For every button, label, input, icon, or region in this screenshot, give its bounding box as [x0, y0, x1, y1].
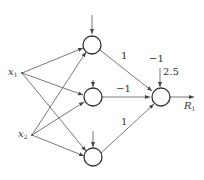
weight-h1-out: 1: [121, 51, 127, 61]
hidden-node-2: [84, 88, 102, 106]
x1-point: [21, 72, 23, 74]
hidden-node-1: [83, 36, 101, 54]
edge-x2-h2: [32, 102, 84, 135]
output-r1-label: R1: [184, 101, 195, 112]
edge-h3-out: [101, 104, 154, 153]
input-x1-label: x1: [8, 67, 17, 78]
weight-h2-out: −1: [116, 84, 131, 94]
neural-network-diagram: x1 x2 1 −1 1 −1 2.5 R1: [0, 0, 204, 180]
hidden-node-3: [84, 148, 102, 166]
x2-point: [31, 134, 33, 136]
output-node: [152, 88, 170, 106]
output-bias-weight: −1: [149, 54, 164, 64]
weight-h3-out: 1: [121, 117, 127, 127]
edge-x2-h3: [32, 135, 84, 156]
input-x2-label: x2: [18, 129, 27, 140]
output-bias-value: 2.5: [163, 67, 179, 77]
network-graph: [0, 0, 204, 180]
edge-x1-h1: [22, 48, 83, 73]
